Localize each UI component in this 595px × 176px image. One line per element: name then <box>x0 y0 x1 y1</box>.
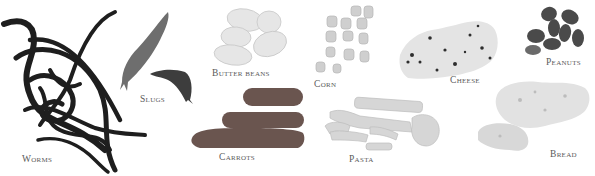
carrots-image <box>191 88 304 148</box>
bread-image <box>478 82 589 151</box>
pasta-image <box>325 97 439 150</box>
worms-label: Worms <box>22 154 52 164</box>
peanuts-image <box>525 5 584 55</box>
carrots-label: Carrots <box>219 152 255 162</box>
corn-image <box>316 6 373 73</box>
bread-label: Bread <box>550 149 577 159</box>
slugs-image <box>120 12 193 104</box>
illustrations <box>0 0 595 176</box>
corn-label: Corn <box>314 79 336 89</box>
cheese-image <box>399 21 497 79</box>
pasta-label: Pasta <box>349 154 374 164</box>
butter-beans-image <box>213 6 290 68</box>
worms-image <box>4 12 145 172</box>
food-illustration: Worms Slugs Butter beans Carrots Corn Ch… <box>0 0 595 176</box>
cheese-label: Cheese <box>450 75 480 85</box>
peanuts-label: Peanuts <box>546 57 581 67</box>
slugs-label: Slugs <box>140 94 165 104</box>
butter-beans-label: Butter beans <box>212 68 270 78</box>
